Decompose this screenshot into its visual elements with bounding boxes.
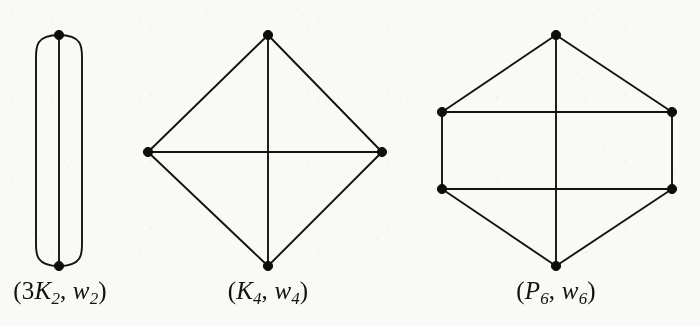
- vertex-k4-right: [377, 147, 386, 156]
- graph-k4: [143, 30, 386, 270]
- caption-p6-weight-symbol: w: [562, 277, 579, 304]
- edge-p6-top-upperright: [556, 35, 672, 112]
- graph-p6: [437, 30, 676, 270]
- caption-p6-close: ): [587, 277, 596, 304]
- edge-k4-left-bottom: [148, 152, 268, 266]
- caption-k4-graph-sub: 4: [253, 289, 262, 308]
- edge-k4-top-left: [148, 35, 268, 152]
- vertex-p6-top: [551, 30, 560, 39]
- caption-p6: (P6, w6): [494, 277, 618, 309]
- caption-3k2-close: ): [98, 277, 107, 304]
- caption-3k2-weight-symbol: w: [73, 277, 90, 304]
- edge-p6-lowerright-bottom: [556, 189, 672, 266]
- caption-3k2-weight-sub: 2: [90, 289, 99, 308]
- edge-p6-top-upperleft: [442, 35, 556, 112]
- vertex-p6-lower-left: [437, 184, 446, 193]
- caption-k4-close: ): [300, 277, 309, 304]
- caption-k4-weight-sub: 4: [291, 289, 300, 308]
- edge-p6-lowerleft-bottom: [442, 189, 556, 266]
- caption-p6-weight-sub: 6: [579, 289, 588, 308]
- vertex-3k2-bottom: [54, 261, 63, 270]
- vertex-3k2-top: [54, 30, 63, 39]
- caption-3k2-graph-sub: 2: [51, 289, 60, 308]
- caption-p6-open: (: [516, 277, 525, 304]
- caption-3k2: (3K2, w2): [0, 277, 120, 309]
- edge-3k2-arc-right: [59, 35, 82, 266]
- edge-3k2-arc-left: [36, 35, 59, 266]
- edge-k4-top-right: [268, 35, 382, 152]
- caption-3k2-coefficient: 3: [22, 277, 35, 304]
- vertex-k4-left: [143, 147, 152, 156]
- caption-3k2-graph-symbol: K: [35, 277, 52, 304]
- caption-k4-open: (: [228, 277, 237, 304]
- caption-k4: (K4, w4): [206, 277, 330, 309]
- figure-board: (3K2, w2) (K4, w4) (P6, w6): [0, 0, 700, 326]
- vertex-p6-lower-right: [667, 184, 676, 193]
- vertex-k4-top: [263, 30, 272, 39]
- vertex-k4-bottom: [263, 261, 272, 270]
- vertex-p6-upper-left: [437, 107, 446, 116]
- vertex-p6-upper-right: [667, 107, 676, 116]
- vertex-p6-bottom: [551, 261, 560, 270]
- edge-k4-right-bottom: [268, 152, 382, 266]
- caption-3k2-comma: ,: [60, 277, 73, 304]
- caption-k4-weight-symbol: w: [274, 277, 291, 304]
- caption-p6-graph-sub: 6: [540, 289, 549, 308]
- graph-3k2: [36, 30, 82, 270]
- caption-k4-comma: ,: [262, 277, 275, 304]
- caption-k4-graph-symbol: K: [236, 277, 253, 304]
- caption-p6-graph-symbol: P: [525, 277, 540, 304]
- caption-p6-comma: ,: [549, 277, 562, 304]
- caption-3k2-open: (: [13, 277, 22, 304]
